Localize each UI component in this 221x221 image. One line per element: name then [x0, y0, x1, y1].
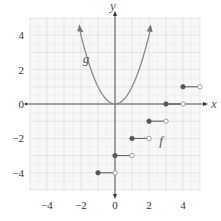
y-tick-label: −2: [12, 132, 24, 144]
graph: −4−2024−4−2024 x y g f: [0, 0, 221, 221]
y-tick-label: 0: [19, 98, 25, 110]
open-point: [147, 136, 151, 140]
closed-point: [181, 85, 185, 89]
open-point: [198, 85, 202, 89]
open-point: [181, 102, 185, 106]
closed-point: [164, 102, 168, 106]
open-point: [113, 171, 117, 175]
open-point: [130, 153, 134, 157]
y-axis-label: y: [108, 0, 116, 13]
closed-point: [130, 136, 134, 140]
open-point: [164, 119, 168, 123]
closed-point: [113, 153, 117, 157]
x-axis-label: x: [210, 96, 217, 111]
y-tick-label: 2: [19, 64, 25, 76]
y-tick-label: −4: [12, 167, 24, 179]
x-tick-label: −2: [75, 199, 87, 211]
x-tick-label: −4: [41, 199, 53, 211]
x-tick-label: 0: [112, 199, 118, 211]
y-tick-label: 4: [19, 29, 25, 41]
x-tick-label: 4: [180, 199, 186, 211]
x-tick-label: 2: [146, 199, 152, 211]
g-label: g: [83, 51, 90, 66]
closed-point: [96, 171, 100, 175]
closed-point: [147, 119, 151, 123]
